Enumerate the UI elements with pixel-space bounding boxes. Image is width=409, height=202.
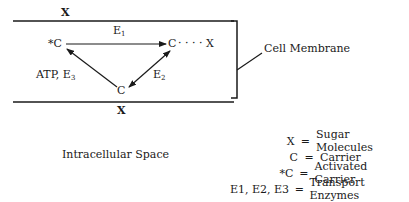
activated-carrier-node: *C bbox=[48, 38, 62, 50]
legend: X = Sugar Molecules C = Carrier *C = Act… bbox=[216, 133, 406, 197]
carrier-node-right: C bbox=[168, 38, 176, 50]
membrane-leader-line bbox=[237, 53, 262, 70]
enzyme-e2-label: E2 bbox=[153, 69, 166, 81]
carrier-node-bottom: C bbox=[117, 85, 125, 97]
intracellular-x-label: X bbox=[117, 105, 126, 117]
membrane-bracket bbox=[231, 21, 237, 98]
carrier-transport-diagram: X X E1 *C C · · · · X C ATP, E3 E2 Cell … bbox=[0, 0, 409, 202]
legend-row: X = Sugar Molecules bbox=[216, 133, 406, 149]
cell-membrane-label: Cell Membrane bbox=[264, 43, 350, 55]
extracellular-x-label: X bbox=[61, 7, 70, 19]
sugar-bound-dots: · · · · X bbox=[178, 38, 214, 50]
legend-row: E1, E2, E3 = Transport Enzymes bbox=[216, 181, 406, 197]
enzyme-e1-label: E1 bbox=[113, 25, 126, 37]
enzyme-e3-label: ATP, E3 bbox=[36, 69, 75, 81]
intracellular-space-label: Intracellular Space bbox=[62, 149, 169, 161]
